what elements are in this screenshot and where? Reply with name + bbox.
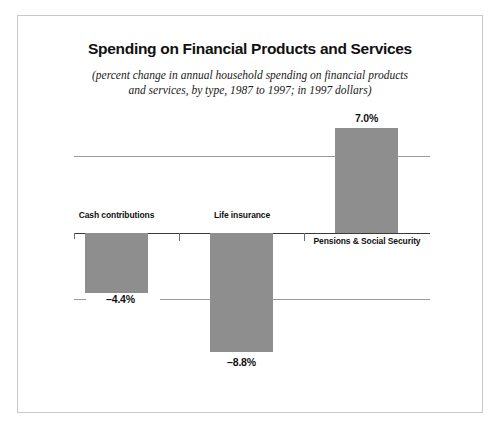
bar-value-pensions-social-security: 7.0%	[336, 112, 397, 124]
axis-tick-1	[179, 233, 180, 241]
bar-value-life-insurance: –8.8%	[211, 356, 272, 368]
axis-tick-2	[304, 233, 305, 241]
bar-cash-contributions[interactable]	[85, 233, 148, 293]
bar-pensions-social-security[interactable]	[335, 128, 398, 233]
gridline-positive-five-right-stub	[398, 156, 430, 157]
bar-value-cash-contributions: –4.4%	[86, 293, 155, 305]
bar-label-life-insurance: Life insurance	[197, 210, 287, 220]
gridline-negative-five	[160, 299, 430, 300]
bar-label-pensions-social-security: Pensions & Social Security	[308, 236, 426, 246]
chart-frame: Spending on Financial Products and Servi…	[17, 15, 483, 413]
plot-area: Cash contributions –4.4% Life insurance …	[18, 16, 484, 414]
axis-tick-0	[74, 233, 75, 239]
bar-label-cash-contributions: Cash contributions	[65, 210, 168, 220]
bar-life-insurance[interactable]	[210, 233, 273, 352]
gridline-negative-five-left-stub	[74, 299, 86, 300]
